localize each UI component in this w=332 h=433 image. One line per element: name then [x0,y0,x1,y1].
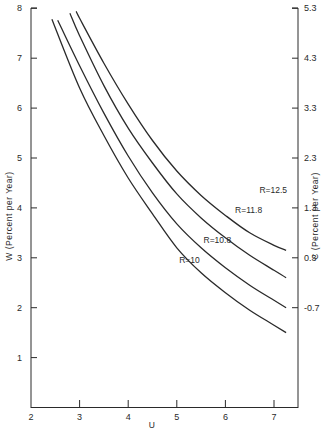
curve-r-10-8 [58,20,286,307]
x-tick-label: 2 [28,412,33,422]
chart-canvas: 234567 12345678 5.34.33.32.31.30.3-0.7 R… [0,0,332,433]
x-tick-label: 6 [223,412,228,422]
y-tick-label: 3 [17,253,22,263]
curve-label: R=11.8 [235,205,262,215]
y-tick-label: 8 [17,3,22,13]
curve-labels: R=10R=10.8R=11.8R=12.5 [179,185,287,265]
y-tick-label: 2 [17,303,22,313]
y-tick-label: 7 [17,53,22,63]
y2-ticks: 5.34.33.32.31.30.3-0.7 [292,3,320,312]
y2-tick-label: -0.7 [304,303,320,313]
curves [52,11,286,332]
x-axis-title: U [149,420,156,430]
y2-tick-label: 4.3 [304,53,317,63]
y2-tick-label: 5.3 [304,3,317,13]
y-axis-title: W (Percent per Year) [4,171,14,260]
curve-label: R=10.8 [204,235,232,245]
x-tick-label: 3 [77,412,82,422]
x-tick-label: 4 [126,412,131,422]
x-tick-label: 5 [174,412,179,422]
y-tick-label: 4 [17,203,22,213]
y2-tick-label: 3.3 [304,103,317,113]
y-ticks: 12345678 [17,3,37,362]
curve-r-11-8 [70,13,286,278]
y-tick-label: 1 [17,353,22,363]
x-tick-label: 7 [271,412,276,422]
curve-label: R=10 [179,255,200,265]
y-tick-label: 6 [17,103,22,113]
y-tick-label: 5 [17,153,22,163]
curve-label: R=12.5 [259,185,287,195]
y2-tick-label: 2.3 [304,153,317,163]
y2-axis-title: C (Percent per Year) [310,172,320,259]
x-ticks: 234567 [28,400,276,422]
